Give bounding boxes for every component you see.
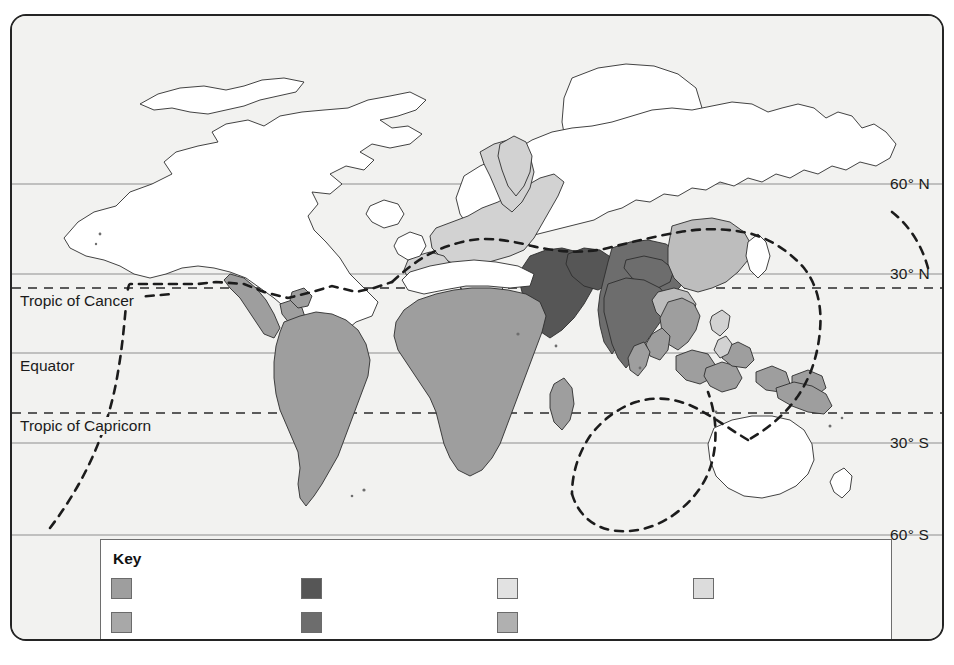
latitude-label-60n: 60° N [890,175,930,193]
key-column-2 [301,578,326,633]
label-equator: Equator [20,357,80,375]
key-column-1 [111,578,136,633]
key-item[interactable] [301,578,326,599]
key-swatch-3b [497,612,518,633]
label-tropic-of-capricorn: Tropic of Capricorn [20,417,157,435]
key-item[interactable] [497,578,522,599]
map-key-box: Key [100,539,892,641]
key-column-3 [497,578,522,633]
key-swatch-3a [497,578,518,599]
key-column-4 [693,578,718,599]
page-root: .land { stroke:#2e2e2e; stroke-width:0.9… [0,0,954,665]
key-item[interactable] [693,578,718,599]
latitude-label-60s: 60° S [890,526,929,544]
world-map-frame: .land { stroke:#2e2e2e; stroke-width:0.9… [10,14,944,641]
key-swatch-2a [301,578,322,599]
key-item[interactable] [301,612,326,633]
key-item[interactable] [111,578,136,599]
key-swatch-1b [111,612,132,633]
latitude-label-30s: 30° S [890,434,929,452]
key-swatch-1a [111,578,132,599]
key-swatch-2b [301,612,322,633]
key-swatch-4a [693,578,714,599]
key-item[interactable] [497,612,522,633]
key-item[interactable] [111,612,136,633]
label-tropic-of-cancer: Tropic of Cancer [20,292,140,310]
key-title: Key [113,550,141,568]
latitude-label-30n: 30° N [890,265,930,283]
